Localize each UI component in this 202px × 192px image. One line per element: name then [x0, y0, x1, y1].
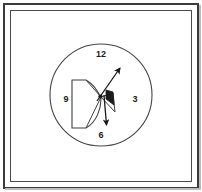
diagram-canvas [0, 0, 202, 192]
clock-label-3: 3 [128, 95, 142, 104]
clock-label-9: 9 [59, 95, 73, 104]
figure-root: 12 3 6 9 [0, 0, 202, 192]
d-shaped-cone [72, 80, 101, 128]
clock-label-6: 6 [0, 131, 202, 140]
clock-label-12: 12 [0, 50, 202, 59]
